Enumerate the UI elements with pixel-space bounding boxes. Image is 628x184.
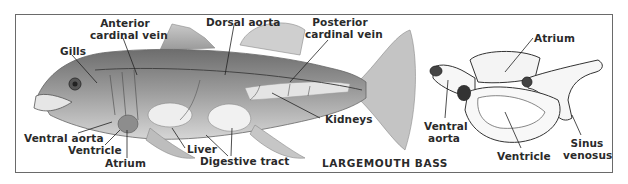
label-kidneys: Kidneys (325, 113, 373, 125)
label-heart-atrium: Atrium (534, 32, 575, 44)
label-heart-ventral-aorta: Ventral aorta (424, 120, 464, 144)
label-heart-sinus-venosus-line2: venosus (563, 149, 611, 161)
label-heart-ventricle: Ventricle (497, 150, 551, 162)
label-liver: Liver (187, 143, 217, 155)
heart-in-fish (118, 115, 138, 133)
label-gills: Gills (60, 45, 86, 57)
label-heart-ventral-aorta-line2: aorta (424, 132, 464, 144)
label-atrium: Atrium (105, 157, 146, 169)
tail-fin (360, 30, 415, 150)
label-ventral-aorta: Ventral aorta (24, 132, 104, 144)
label-anterior-cardinal-vein: Anterior cardinal vein (90, 17, 160, 41)
label-heart-sinus-venosus: Sinus venosus (563, 137, 611, 161)
liver-organ (148, 103, 192, 127)
label-posterior-cardinal-vein: Posterior cardinal vein (305, 16, 375, 40)
anal-fin (250, 125, 305, 158)
label-posterior-cardinal-vein-line2: cardinal vein (305, 28, 375, 40)
label-ventricle: Ventricle (68, 144, 122, 156)
label-anterior-cardinal-vein-line2: cardinal vein (90, 29, 160, 41)
label-anterior-cardinal-vein-line1: Anterior (90, 17, 160, 29)
label-heart-sinus-venosus-line1: Sinus (563, 137, 611, 149)
label-heart-ventral-aorta-line1: Ventral (424, 120, 464, 132)
label-digestive-tract: Digestive tract (200, 155, 289, 167)
label-dorsal-aorta: Dorsal aorta (206, 16, 280, 28)
figure-title: LARGEMOUTH BASS (322, 157, 448, 169)
label-posterior-cardinal-vein-line1: Posterior (305, 16, 375, 28)
